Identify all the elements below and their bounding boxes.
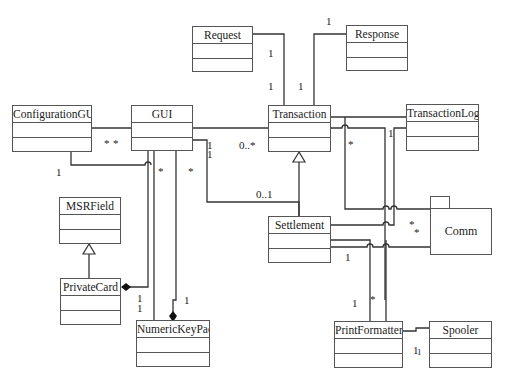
class-spooler[interactable]: Spooler bbox=[429, 321, 492, 368]
response-transaction-link bbox=[314, 34, 346, 105]
privatecard-composition-diamond bbox=[121, 283, 131, 291]
class-numeric-keypad[interactable]: NumericKeyPad bbox=[136, 320, 210, 367]
translog-settlement-link bbox=[330, 128, 406, 225]
class-operations bbox=[407, 137, 478, 151]
gui-keypad-comp-link bbox=[173, 151, 176, 312]
class-attributes bbox=[61, 296, 120, 311]
class-operations bbox=[13, 138, 91, 152]
class-attributes bbox=[132, 123, 192, 138]
transaction-printformatter-link bbox=[330, 125, 385, 300]
mult-spooler-one-b: 1 bbox=[417, 347, 422, 358]
class-attributes bbox=[430, 339, 491, 354]
transaction-generalization-arrow bbox=[293, 152, 305, 162]
class-transaction-log[interactable]: TransactionLog bbox=[406, 104, 479, 151]
mult-gui-settlement-star: * bbox=[188, 166, 194, 177]
class-msr-field[interactable]: MSRField bbox=[59, 197, 121, 244]
mult-response-top: 1 bbox=[326, 16, 332, 27]
mult-settlement-01: 0..1 bbox=[256, 189, 273, 200]
class-operations bbox=[269, 249, 330, 263]
package-comm[interactable]: Comm bbox=[430, 196, 492, 255]
class-operations bbox=[193, 59, 252, 73]
class-private-card[interactable]: PrivateCard bbox=[60, 278, 121, 325]
class-operations bbox=[430, 354, 491, 368]
class-name: Spooler bbox=[430, 322, 491, 339]
mult-gui-transaction-many: 0..* bbox=[239, 140, 256, 151]
class-gui[interactable]: GUI bbox=[131, 105, 193, 151]
mult-response-transaction: 1 bbox=[298, 81, 304, 92]
config-privatecard-link bbox=[71, 152, 151, 165]
class-attributes bbox=[60, 215, 120, 230]
class-attributes bbox=[269, 123, 330, 138]
class-attributes bbox=[193, 44, 252, 59]
class-attributes bbox=[335, 339, 402, 354]
class-attributes bbox=[269, 234, 330, 249]
class-settlement[interactable]: Settlement bbox=[268, 216, 331, 263]
class-print-formatter[interactable]: PrintFormatter bbox=[334, 321, 403, 368]
mult-comm-star-b: * bbox=[414, 227, 420, 238]
mult-config-gui-right: * bbox=[113, 138, 119, 149]
class-operations bbox=[347, 58, 407, 72]
class-operations bbox=[335, 354, 402, 368]
class-name: Transaction bbox=[269, 106, 330, 123]
class-name: Response bbox=[347, 26, 407, 43]
msrfield-generalization-arrow bbox=[83, 244, 95, 254]
class-operations bbox=[132, 138, 192, 152]
mult-config-bottom: 1 bbox=[56, 167, 62, 178]
mult-gui-keypad-star: * bbox=[158, 166, 164, 177]
class-operations bbox=[137, 353, 209, 367]
mult-config-gui-left: * bbox=[104, 138, 110, 149]
class-operations bbox=[60, 230, 120, 244]
class-name: Settlement bbox=[269, 217, 330, 234]
mult-gui-transaction-one-b: 1 bbox=[207, 149, 213, 160]
request-transaction-link bbox=[252, 34, 284, 105]
class-name: MSRField bbox=[60, 198, 120, 215]
class-name: PrivateCard bbox=[61, 279, 120, 296]
gui-privatecard-link bbox=[130, 151, 148, 287]
mult-printformatter-star: * bbox=[370, 294, 376, 305]
class-name: GUI bbox=[132, 106, 192, 123]
class-attributes bbox=[13, 123, 91, 138]
mult-request-transaction-top: 1 bbox=[268, 48, 274, 59]
class-operations bbox=[61, 311, 120, 325]
class-response[interactable]: Response bbox=[346, 25, 408, 71]
class-attributes bbox=[407, 122, 478, 137]
package-tab bbox=[430, 196, 450, 208]
settlement-comm-link bbox=[330, 244, 430, 247]
class-name: Request bbox=[193, 27, 252, 44]
package-name: Comm bbox=[430, 208, 492, 255]
printformatter-spooler-link bbox=[402, 328, 429, 331]
class-attributes bbox=[347, 43, 407, 58]
class-attributes bbox=[137, 338, 209, 353]
class-configuration-gui[interactable]: ConfigurationGUI bbox=[12, 105, 92, 152]
mult-transaction-comm-star: * bbox=[348, 139, 354, 150]
mult-request-transaction-bottom: 1 bbox=[268, 81, 274, 92]
class-name: ConfigurationGUI bbox=[13, 106, 91, 123]
class-operations bbox=[269, 138, 330, 152]
mult-privatecard-one-b: 1 bbox=[137, 303, 143, 314]
mult-settlement-one: 1 bbox=[345, 252, 351, 263]
class-transaction[interactable]: Transaction bbox=[268, 105, 331, 152]
mult-printformatter-one: 1 bbox=[352, 298, 358, 309]
class-name: TransactionLog bbox=[407, 105, 478, 122]
class-name: NumericKeyPad bbox=[137, 321, 209, 338]
mult-keypad-one: 1 bbox=[184, 295, 190, 306]
mult-translog-one: 1 bbox=[388, 128, 394, 139]
class-request[interactable]: Request bbox=[192, 26, 253, 72]
class-name: PrintFormatter bbox=[335, 322, 402, 339]
